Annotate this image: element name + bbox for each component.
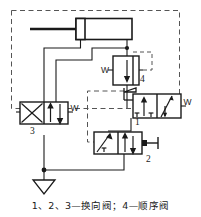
valve2-number-label: 2 (146, 154, 151, 164)
valve3-spring-label: W (71, 103, 79, 113)
figure-caption: 1、2、3—换向阀；4—顺序阀 (0, 198, 201, 212)
directional-control-valve-3[interactable]: W 3 (16, 102, 79, 136)
valve4-spring-label: W (101, 65, 109, 75)
directional-control-valve-2[interactable]: 2 (94, 132, 158, 164)
valve2-plunger-actuator (142, 137, 158, 149)
double-acting-cylinder (30, 19, 132, 40)
valve3-number-label: 3 (30, 126, 35, 136)
figure-canvas: W 3 (0, 0, 201, 217)
directional-control-valve-1[interactable]: W 1 (124, 88, 192, 127)
junction-dot-cylinder-cap (125, 46, 129, 50)
junction-dot-return-rail (42, 168, 47, 173)
pipe-cylinder-rod-to-valve3 (44, 40, 81, 113)
valve1-number-label: 1 (135, 117, 140, 127)
pipe-valve2-drain-to-rail (44, 154, 124, 170)
sequence-valve-4[interactable]: W 4 (101, 56, 145, 85)
valve4-number-label: 4 (140, 74, 145, 84)
valve1-spring-label: W (184, 97, 192, 107)
circuit-schematic: W 3 (0, 0, 201, 217)
reservoir-tank (33, 180, 55, 194)
pipe-valve1-to-valve2 (108, 118, 131, 131)
